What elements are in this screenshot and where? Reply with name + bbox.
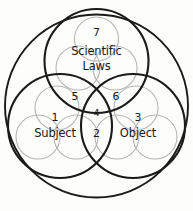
venn-diagram-container: 7 Scientific Laws 5 6 4 1 Subject 3 Obje… [0,0,193,211]
venn-diagram-svg: 7 Scientific Laws 5 6 4 1 Subject 3 Obje… [0,0,193,211]
region-number-2: 2 [93,127,100,140]
region-number-6: 6 [113,90,120,103]
region-number-1: 1 [52,111,59,124]
region-number-4: 4 [93,107,99,118]
region-number-5: 5 [72,90,79,103]
scientific-laws-label-line1: Scientific [71,44,121,58]
region-number-3: 3 [135,111,142,124]
object-label: Object [120,126,157,140]
scientific-laws-label-line2: Laws [82,59,110,73]
region-number-7: 7 [93,26,100,39]
subject-label: Subject [34,126,76,140]
